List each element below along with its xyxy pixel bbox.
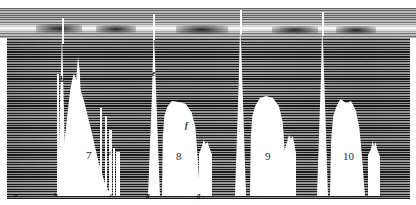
bottom-white-margin — [0, 199, 416, 205]
label-a: a — [14, 192, 18, 199]
continuum-dark-blob-2 — [96, 25, 136, 33]
continuum-dark-blob-3 — [176, 25, 228, 34]
numeral-7: 7 — [86, 150, 92, 161]
top-white-margin — [0, 0, 416, 8]
continuum-dark-blob-4 — [272, 26, 318, 34]
spectrogram-plate: a b b c' c d e f g 7 8 9 10 — [0, 0, 416, 205]
label-g: g — [197, 192, 201, 199]
peak-8-spike — [240, 10, 242, 34]
peak-4d-thin — [113, 148, 115, 196]
numeral-9: 9 — [265, 151, 271, 162]
numeral-8: 8 — [176, 151, 182, 162]
numeral-10: 10 — [343, 151, 354, 162]
continuum-dark-blob-5 — [336, 26, 376, 34]
label-b-peak: b — [60, 76, 64, 84]
peak-11-spike — [322, 12, 324, 36]
peak-5-spike — [153, 14, 155, 40]
label-e: e — [152, 70, 156, 78]
label-d: d — [146, 193, 150, 200]
label-c-prime: c' — [108, 150, 113, 157]
label-c: c — [110, 192, 113, 199]
continuum-dark-blob-1 — [36, 24, 82, 33]
peak-4-thin — [100, 108, 102, 196]
label-b-baseline: b — [54, 192, 58, 199]
peak-4c-thin — [109, 130, 112, 196]
label-f: f — [185, 122, 188, 130]
peak-1-spike — [62, 18, 64, 44]
gap-column-c — [116, 152, 120, 196]
